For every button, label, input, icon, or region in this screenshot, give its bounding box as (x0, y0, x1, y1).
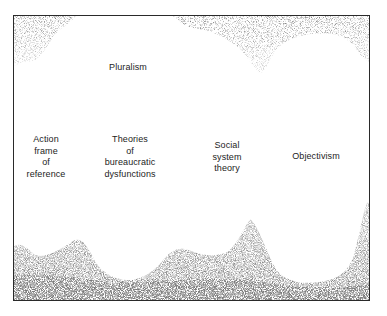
label-objectivism: Objectivism (292, 151, 340, 163)
top-stipple-band (173, 16, 369, 74)
label-pluralism: Pluralism (109, 62, 147, 74)
top-left-stipple-patch (14, 16, 76, 66)
label-action-frame-of-reference: Action frame of reference (27, 134, 66, 180)
label-theories-of-bureaucratic-dysfunctions: Theories of bureaucratic dysfunctions (104, 134, 155, 180)
label-social-system-theory: Social system theory (212, 140, 241, 175)
diagram-frame: Pluralism Action frame of reference Theo… (13, 15, 370, 301)
